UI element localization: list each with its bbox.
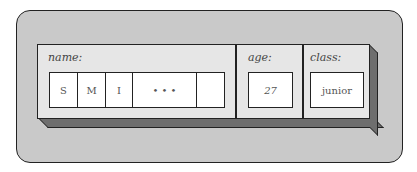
record-slab: name: S M I • • • age: 27 class: junior: [37, 44, 370, 119]
record-slab-bottom-edge: [39, 119, 384, 128]
name-cell-ellipsis: • • •: [133, 73, 197, 107]
name-char-array: S M I • • •: [49, 72, 225, 108]
name-cell: S: [50, 73, 78, 107]
field-divider: [302, 45, 304, 118]
record-slab-side-edge: [370, 45, 378, 136]
field-age-label: age:: [248, 51, 272, 64]
name-cell: I: [106, 73, 133, 107]
age-value-box: 27: [248, 72, 293, 108]
name-cell: M: [78, 73, 106, 107]
field-name-label: name:: [48, 51, 82, 64]
class-value-box: junior: [310, 72, 364, 108]
field-class-label: class:: [310, 51, 341, 64]
field-divider: [235, 45, 237, 118]
name-cell: [197, 73, 224, 107]
